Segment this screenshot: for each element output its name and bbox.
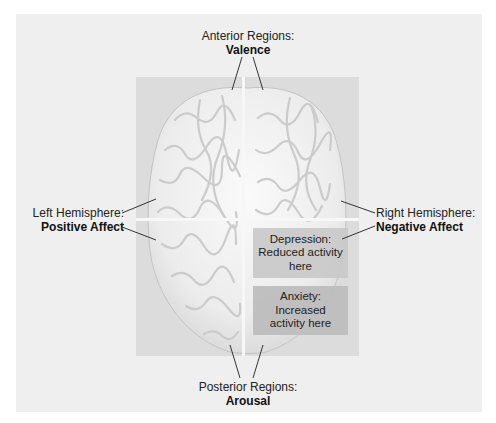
left-hemisphere-label: Left Hemisphere: Positive Affect bbox=[16, 206, 124, 234]
depression-line2: Reduced activity bbox=[258, 246, 342, 260]
anterior-title: Anterior Regions: bbox=[188, 29, 308, 43]
depression-box: Depression: Reduced activity here bbox=[253, 228, 348, 278]
right-hemisphere-label: Right Hemisphere: Negative Affect bbox=[376, 206, 488, 234]
anterior-label: Anterior Regions: Valence bbox=[188, 29, 308, 57]
right-emphasis: Negative Affect bbox=[376, 220, 488, 234]
anxiety-line1: Anxiety: bbox=[280, 290, 321, 304]
posterior-emphasis: Arousal bbox=[186, 394, 310, 408]
anxiety-line2: Increased bbox=[275, 304, 326, 318]
vertical-divider bbox=[242, 77, 245, 356]
anxiety-line3: activity here bbox=[270, 317, 331, 331]
depression-line1: Depression: bbox=[270, 233, 331, 247]
anxiety-box: Anxiety: Increased activity here bbox=[253, 286, 348, 335]
horizontal-divider bbox=[136, 218, 359, 221]
depression-line3: here bbox=[289, 260, 312, 274]
left-title: Left Hemisphere: bbox=[16, 206, 124, 220]
right-title: Right Hemisphere: bbox=[376, 206, 488, 220]
anterior-emphasis: Valence bbox=[188, 43, 308, 57]
posterior-label: Posterior Regions: Arousal bbox=[186, 380, 310, 408]
left-emphasis: Positive Affect bbox=[16, 220, 124, 234]
posterior-title: Posterior Regions: bbox=[186, 380, 310, 394]
